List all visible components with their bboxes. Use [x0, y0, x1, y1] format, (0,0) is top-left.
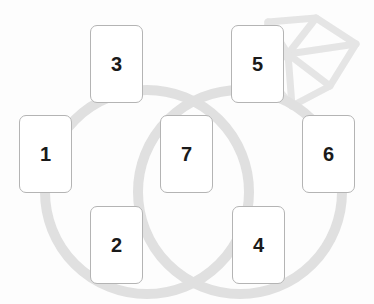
card-label: 4 — [253, 235, 264, 255]
card-label: 3 — [111, 54, 122, 74]
card-2[interactable]: 2 — [90, 206, 143, 284]
card-6[interactable]: 6 — [302, 115, 355, 193]
card-label: 2 — [111, 235, 122, 255]
card-label: 5 — [252, 54, 263, 74]
card-3[interactable]: 3 — [90, 25, 143, 103]
card-label: 1 — [40, 144, 51, 164]
card-7[interactable]: 7 — [160, 115, 213, 193]
card-label: 7 — [181, 144, 192, 164]
card-1[interactable]: 1 — [19, 115, 72, 193]
card-4[interactable]: 4 — [232, 206, 285, 284]
card-label: 6 — [323, 144, 334, 164]
left-circle — [45, 90, 249, 294]
puzzle-canvas: 1 3 5 7 6 2 4 — [0, 0, 374, 304]
card-5[interactable]: 5 — [231, 25, 284, 103]
